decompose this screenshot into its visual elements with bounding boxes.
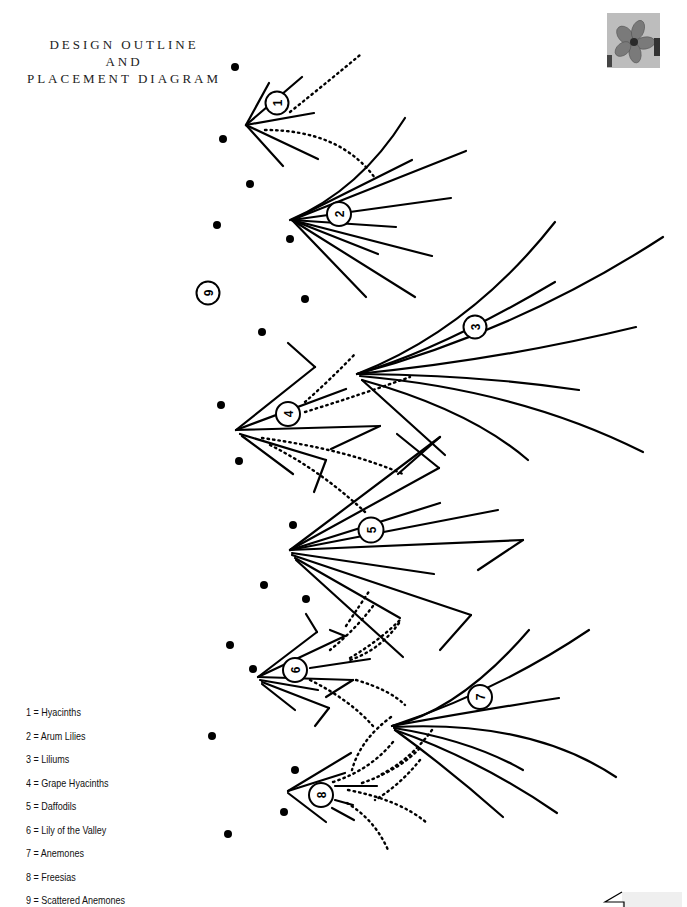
placement-dot [289,521,297,529]
marker-5: 5 [359,518,384,543]
svg-text:8: 8 [315,791,329,798]
placement-dot [235,457,243,465]
marker-6: 6 [283,658,307,682]
marker-7: 7 [468,685,492,709]
placement-dot [224,830,232,838]
svg-text:7: 7 [474,693,488,700]
placement-dot [226,641,234,649]
group-2-stems [290,118,466,297]
legend: 1 = Hyacinths 2 = Arum Lilies 3 = Lilium… [26,705,125,907]
marker-8: 8 [309,783,333,807]
svg-text:6: 6 [289,666,303,673]
svg-text:4: 4 [282,410,296,417]
legend-item-9: 9 = Scattered Anemones [26,893,125,907]
legend-item-2: 2 = Arum Lilies [26,729,125,753]
svg-text:1: 1 [271,99,285,106]
placement-dot [286,235,294,243]
svg-text:9: 9 [202,289,216,296]
legend-item-1: 1 = Hyacinths [26,705,125,729]
placement-dot [213,221,221,229]
svg-text:5: 5 [365,526,379,533]
placement-dot [302,595,310,603]
legend-item-4: 4 = Grape Hyacinths [26,776,125,800]
group-3-stems [357,222,663,460]
placement-dot [208,732,216,740]
legend-item-3: 3 = Liliums [26,752,125,776]
page-turn-icon [602,890,687,907]
placement-dot [280,808,288,816]
svg-text:3: 3 [469,323,483,330]
marker-9: 9 [197,282,220,305]
group-7-stems [352,630,616,817]
placement-dot [219,135,227,143]
group-6-stems [258,590,405,726]
marker-1: 1 [266,92,289,115]
legend-item-8: 8 = Freesias [26,870,125,894]
marker-4: 4 [276,402,300,426]
placement-dot [217,401,225,409]
placement-dot [246,180,254,188]
group-1-stems [246,55,375,178]
marker-3: 3 [464,316,487,339]
svg-text:2: 2 [333,210,347,217]
placement-dot [249,665,257,673]
placement-dot [291,766,299,774]
placement-dot [258,328,266,336]
placement-dot [260,581,268,589]
placement-dot [231,63,239,71]
group-5-stems [290,434,523,660]
marker-2: 2 [327,202,351,226]
group-4-stems [236,343,410,512]
legend-item-6: 6 = Lily of the Valley [26,823,125,847]
legend-item-7: 7 = Anemones [26,846,125,870]
placement-dot [301,295,309,303]
legend-item-5: 5 = Daffodils [26,799,125,823]
